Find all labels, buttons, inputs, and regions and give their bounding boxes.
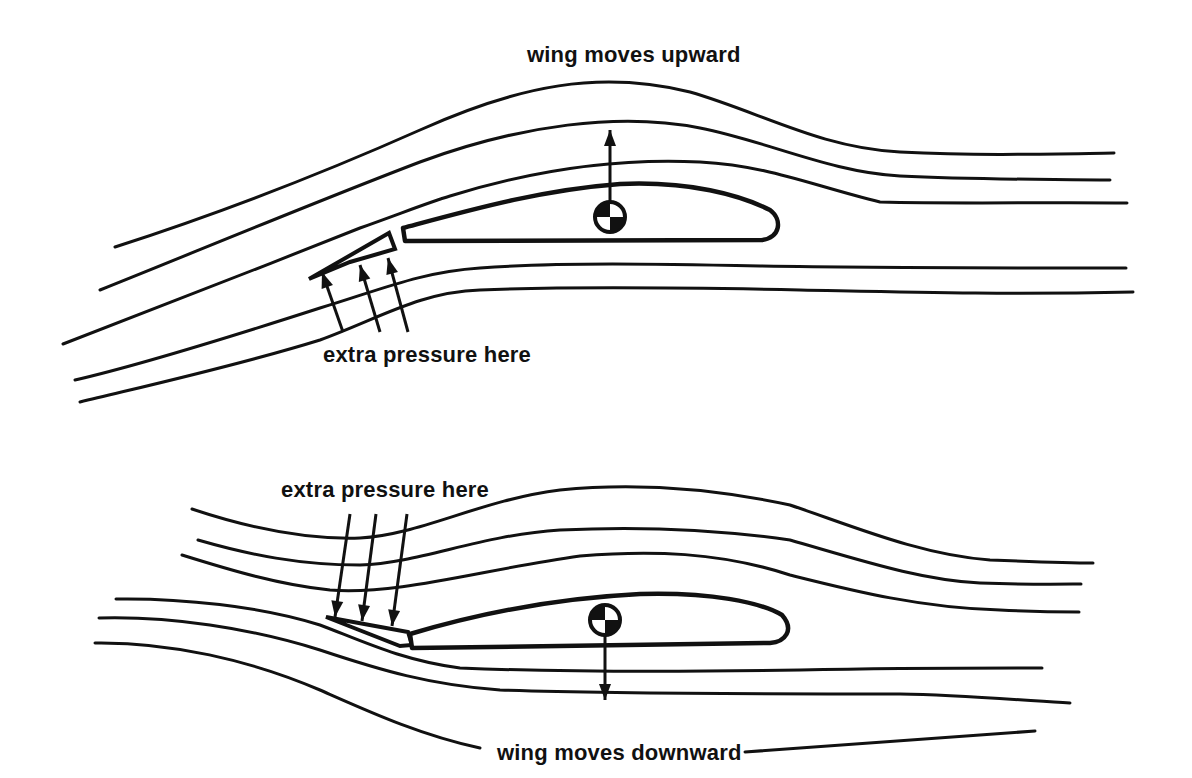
lower-pressure-arrows (331, 514, 407, 626)
arrowhead-icon (359, 265, 370, 282)
streamline (95, 643, 480, 748)
arrowhead-icon (388, 609, 400, 626)
arrowhead-icon (331, 600, 343, 617)
wing-moves-downward-label: wing moves downward (496, 740, 742, 765)
arrowhead-icon (386, 258, 398, 275)
upper-extra-pressure-label: extra pressure here (323, 342, 531, 367)
lower-center-of-gravity-icon (590, 605, 620, 635)
arrowhead-icon (358, 604, 370, 621)
wing-moves-upward-label: wing moves upward (526, 42, 741, 67)
lower-label-right-streamline (745, 731, 1035, 752)
arrow-shaft (362, 514, 376, 621)
upper-center-of-gravity-icon (595, 202, 625, 232)
lower-extra-pressure-label: extra pressure here (281, 477, 489, 502)
slat-pressure-diagram: wing moves upward extra pressure here ex… (0, 0, 1192, 778)
arrowhead-icon (604, 130, 616, 146)
upper-panel-slat-deflected-up: wing moves upward extra pressure here (63, 42, 1133, 402)
arrowhead-icon (322, 272, 333, 289)
streamline (75, 264, 1126, 380)
streamline (80, 288, 1133, 402)
lower-panel-slat-deflected-down: extra pressure here wing moves downward (95, 477, 1093, 765)
